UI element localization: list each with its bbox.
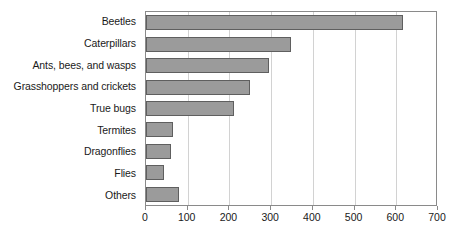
bar-caterpillars — [146, 37, 291, 52]
y-axis-label-flies: Flies — [0, 163, 142, 185]
x-tick-label-700: 700 — [428, 211, 446, 223]
y-axis-label-termites: Termites — [0, 119, 142, 141]
x-tick-label-500: 500 — [345, 211, 363, 223]
bar-row — [146, 119, 436, 140]
bar-row — [146, 12, 436, 33]
y-axis-label-dragonflies: Dragonflies — [0, 141, 142, 163]
bar-chart-figure: Beetles Caterpillars Ants, bees, and was… — [0, 0, 467, 241]
x-tick-label-100: 100 — [178, 211, 196, 223]
x-tick-label-400: 400 — [303, 211, 321, 223]
x-tick-mark-200 — [228, 206, 229, 210]
y-axis-label-true-bugs: True bugs — [0, 98, 142, 120]
bar-grasshoppers-and-crickets — [146, 80, 250, 95]
x-tick-mark-500 — [354, 206, 355, 210]
bar-row — [146, 141, 436, 162]
bar-others — [146, 187, 179, 202]
y-axis-label-caterpillars: Caterpillars — [0, 33, 142, 55]
bar-flies — [146, 165, 164, 180]
bar-row — [146, 55, 436, 76]
x-axis-tick-labels: 0100200300400500600700 — [145, 211, 437, 229]
x-tick-mark-300 — [270, 206, 271, 210]
x-tick-mark-100 — [187, 206, 188, 210]
bar-dragonflies — [146, 144, 171, 159]
bar-row — [146, 184, 436, 205]
bar-row — [146, 162, 436, 183]
plot-area — [145, 11, 437, 206]
y-axis-label-grasshoppers-crickets: Grasshoppers and crickets — [0, 76, 142, 98]
y-axis-label-others: Others — [0, 184, 142, 206]
bar-termites — [146, 122, 173, 137]
x-tick-mark-400 — [312, 206, 313, 210]
x-tick-mark-0 — [145, 206, 146, 210]
bar-row — [146, 98, 436, 119]
y-axis-category-labels: Beetles Caterpillars Ants, bees, and was… — [0, 11, 142, 206]
x-tick-mark-700 — [437, 206, 438, 210]
bar-ants-bees-and-wasps — [146, 58, 269, 73]
bar-true-bugs — [146, 101, 234, 116]
bar-beetles — [146, 15, 403, 30]
x-tick-mark-600 — [395, 206, 396, 210]
x-tick-label-0: 0 — [142, 211, 148, 223]
x-tick-label-300: 300 — [261, 211, 279, 223]
y-axis-label-ants-bees-wasps: Ants, bees, and wasps — [0, 54, 142, 76]
x-tick-label-200: 200 — [220, 211, 238, 223]
bar-series — [146, 12, 436, 205]
y-axis-label-beetles: Beetles — [0, 11, 142, 33]
x-tick-label-600: 600 — [387, 211, 405, 223]
bar-row — [146, 33, 436, 54]
bar-row — [146, 76, 436, 97]
